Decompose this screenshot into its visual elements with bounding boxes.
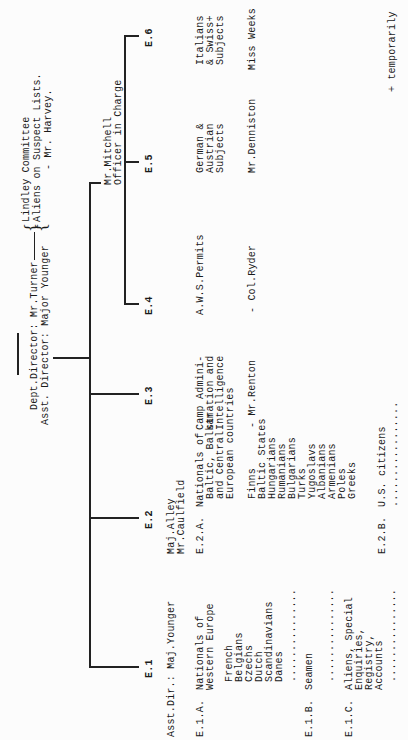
e1-head: Asst.Dir.: Maj.Younger bbox=[167, 601, 177, 737]
director-line-2: Asst. Director: Major Younger bbox=[41, 245, 51, 425]
label-e3: E.3 bbox=[145, 386, 155, 405]
e1a-code: E.1.A. bbox=[196, 700, 206, 737]
footnote: + temporarily bbox=[388, 11, 398, 92]
director-connector bbox=[53, 357, 91, 359]
director-line-1: Dept.Director: Mr.Turner bbox=[30, 261, 40, 410]
e1c-dots: ............... bbox=[388, 589, 398, 682]
e1b-dots: ............... bbox=[326, 589, 336, 682]
label-e2: E.2 bbox=[145, 510, 155, 529]
mitchell-branch-bar bbox=[124, 35, 126, 305]
tick-e3 bbox=[89, 393, 139, 395]
e4-desc-1: A.W.S.Permits bbox=[196, 234, 206, 315]
e2b-code: E.2.B. bbox=[378, 517, 388, 554]
tick-e1 bbox=[89, 666, 139, 668]
e6-desc-3: Subjects bbox=[216, 15, 226, 65]
e2b-title: U.S. citizens bbox=[378, 426, 388, 507]
e1c-title-4: Accounts bbox=[375, 640, 385, 690]
top-rule bbox=[17, 333, 19, 375]
e1a-item: Danes bbox=[275, 651, 285, 682]
tick-e6 bbox=[124, 35, 139, 37]
e2a-code: E.2.A. bbox=[196, 517, 206, 554]
e3-person: - Mr.Renton bbox=[248, 360, 258, 428]
director-dash-to-lindley bbox=[34, 232, 35, 260]
e1b-title: Seamen bbox=[305, 653, 315, 690]
tick-e2 bbox=[89, 517, 139, 519]
lindley-line-2: Aliens on Suspect Lists. bbox=[33, 73, 43, 222]
label-e6: E.6 bbox=[145, 28, 155, 47]
e3-desc-3: Intelligence bbox=[216, 356, 226, 430]
tick-e5 bbox=[124, 161, 139, 163]
e1b-code: E.1.B. bbox=[305, 700, 315, 737]
label-e1: E.1 bbox=[145, 659, 155, 678]
e5-desc-3: Subjects bbox=[216, 123, 226, 173]
mitchell-line-2: Officer in Charge bbox=[114, 80, 124, 185]
org-chart-page: Dept.Director: Mr.Turner Asst. Director:… bbox=[0, 0, 408, 740]
e4-person: - Col.Ryder bbox=[248, 245, 258, 313]
main-branch-bar bbox=[89, 182, 91, 668]
label-e5: E.5 bbox=[145, 154, 155, 173]
tick-e4 bbox=[124, 303, 139, 305]
mitchell-connector bbox=[89, 182, 101, 184]
e2a-item: Greeks bbox=[348, 462, 358, 499]
lindley-line-1: Lindley Committee bbox=[22, 117, 32, 222]
e6-person: Miss Weeks bbox=[248, 8, 258, 70]
label-e4: E.4 bbox=[145, 296, 155, 315]
e1c-code: E.1.C. bbox=[345, 700, 355, 737]
lindley-line-3: - Mr. Harvey. bbox=[44, 89, 54, 170]
e2a-title-4: European countries bbox=[226, 387, 236, 499]
brace-icon-2: { bbox=[36, 223, 46, 232]
e1a-dots: ............... bbox=[288, 589, 298, 682]
e5-person: Mr.Denniston bbox=[248, 99, 258, 173]
e1a-title-2: Western Europe bbox=[206, 603, 216, 690]
e2-head-2: Mr.Caulfield bbox=[177, 480, 187, 554]
e2b-dots: ................. bbox=[390, 402, 400, 507]
